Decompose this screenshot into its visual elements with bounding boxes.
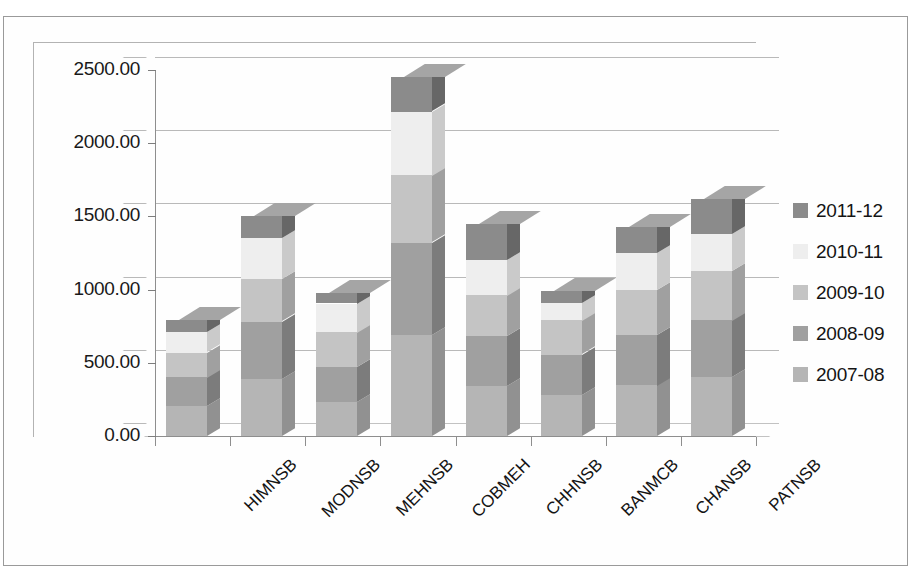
legend-label: 2011-12 — [816, 200, 883, 222]
legend-swatch — [793, 326, 808, 341]
legend-item[interactable]: 2008-09 — [793, 313, 884, 354]
legend-label: 2010-11 — [816, 241, 883, 263]
legend-item[interactable]: 2009-10 — [793, 272, 884, 313]
legend-item[interactable]: 2011-12 — [793, 190, 884, 231]
legend-swatch — [793, 285, 808, 300]
legend-label: 2007-08 — [816, 364, 884, 386]
legend-swatch — [793, 244, 808, 259]
legend-swatch — [793, 367, 808, 382]
chart-page: 0.00500.001000.001500.002000.002500.00 H… — [0, 0, 917, 583]
chart-title — [4, 1, 764, 17]
legend-item[interactable]: 2010-11 — [793, 231, 884, 272]
legend-label: 2008-09 — [816, 323, 884, 345]
legend-item[interactable]: 2007-08 — [793, 354, 884, 395]
legend-swatch — [793, 203, 808, 218]
legend-label: 2009-10 — [816, 282, 884, 304]
chart-frame — [3, 16, 908, 566]
chart-legend: 2011-122010-112009-102008-092007-08 — [793, 190, 884, 395]
